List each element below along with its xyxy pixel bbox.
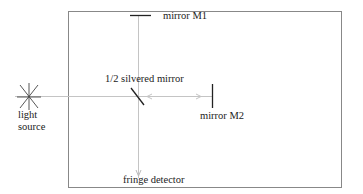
light-source-label-line2: source xyxy=(18,122,45,133)
mirror-m1-label: mirror M1 xyxy=(163,11,207,22)
mirror-m2-label: mirror M2 xyxy=(200,111,244,122)
beam-splitter-label: 1/2 silvered mirror xyxy=(105,74,184,85)
apparatus-frame xyxy=(69,12,342,188)
detector-label: fringe detector xyxy=(123,175,185,186)
light-source-label-line1: light xyxy=(18,110,37,121)
interferometer-diagram xyxy=(0,0,363,194)
